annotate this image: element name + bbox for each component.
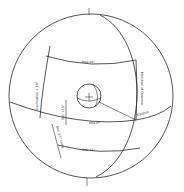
label-right-meridian: Meridian of Observer <box>140 72 144 106</box>
label-center-declination: Dec +15° <box>61 104 65 120</box>
observer-line <box>99 102 136 120</box>
celestial-sphere-diagram: Dnk 60° Dnk 0° Dnk 15° Equator Declinati… <box>0 0 184 192</box>
right-hour-circle <box>136 60 137 120</box>
label-parallel-top: Dnk 60° <box>82 60 95 64</box>
label-equator: Equator <box>136 110 150 117</box>
meridian-arc <box>96 15 137 177</box>
label-parallel-equator: Dnk 0° <box>89 121 100 125</box>
parallel-bottom <box>58 145 140 151</box>
label-left-declination: Declination + 60° <box>35 81 39 110</box>
label-parallel-bottom: Dnk 15° <box>82 148 95 152</box>
outer-sphere <box>9 14 173 178</box>
equator-line <box>10 102 136 122</box>
